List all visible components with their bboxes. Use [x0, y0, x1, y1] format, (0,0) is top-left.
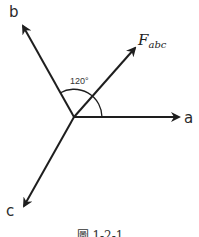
phasor-diagram: 120° a b c Fabc 圖 1-2-1	[0, 0, 199, 237]
axis-a-label: a	[184, 109, 193, 127]
figure-caption: 圖 1-2-1	[77, 229, 124, 237]
axis-b-label: b	[9, 3, 19, 21]
angle-label: 120°	[70, 76, 89, 86]
vector-f-subscript: abc	[148, 39, 166, 50]
vector-f-main: F	[137, 31, 149, 49]
axis-b-arrow	[23, 26, 74, 117]
axis-c-label: c	[6, 202, 14, 220]
axis-c-arrow	[24, 117, 74, 206]
vector-f-abc-label: Fabc	[137, 31, 167, 50]
